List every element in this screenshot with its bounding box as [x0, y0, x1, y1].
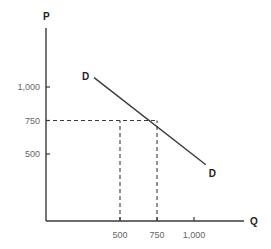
- demand-chart: 5007501,000 5007501,000 P Q DD: [0, 0, 271, 249]
- y-tick-label: 1,000: [17, 82, 40, 92]
- reference-lines: [46, 121, 157, 222]
- axes: [46, 28, 244, 221]
- y-ticks: 5007501,000: [17, 82, 50, 159]
- demand-curve-start-label: D: [82, 71, 89, 82]
- x-tick-label: 1,000: [183, 230, 206, 240]
- demand-curve-end-label: D: [209, 168, 216, 179]
- x-tick-label: 750: [149, 230, 164, 240]
- y-tick-label: 500: [25, 149, 40, 159]
- y-axis-title: P: [43, 11, 50, 22]
- x-axis-title: Q: [250, 216, 258, 227]
- x-tick-label: 500: [112, 230, 127, 240]
- y-tick-label: 750: [25, 116, 40, 126]
- curve-labels: DD: [82, 71, 216, 179]
- demand-curves: [94, 78, 206, 165]
- demand-curve: [94, 78, 206, 165]
